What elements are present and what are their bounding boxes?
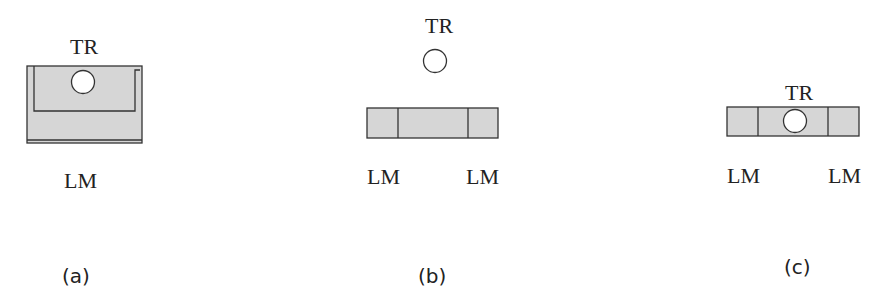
panel-c-tr-circle (784, 110, 807, 133)
panel-c-lm-label-left: LM (727, 163, 760, 188)
panel-a-lm-label: LM (64, 168, 97, 193)
panel-b-lm-label-right: LM (466, 164, 499, 189)
panel-a-tr-circle (72, 71, 95, 94)
panel-c-lm-label-right: LM (828, 163, 861, 188)
panel-c-caption: (c) (784, 255, 811, 279)
panel-a-caption: (a) (62, 264, 90, 288)
diagram-canvas: TR LM (a) TR LM LM (b) TR LM LM (c) (0, 0, 891, 302)
panel-b: TR LM LM (b) (367, 13, 499, 288)
panel-b-tr-circle (424, 50, 447, 73)
panel-b-tr-label: TR (425, 13, 453, 38)
panel-b-caption: (b) (418, 264, 446, 288)
panel-c-tr-label: TR (785, 80, 813, 105)
panel-b-lm-label-left: LM (367, 164, 400, 189)
panel-a: TR LM (a) (27, 34, 142, 288)
panel-a-tr-label: TR (70, 34, 98, 59)
panel-c: TR LM LM (c) (727, 80, 861, 279)
panel-b-lm-bar (367, 108, 498, 138)
